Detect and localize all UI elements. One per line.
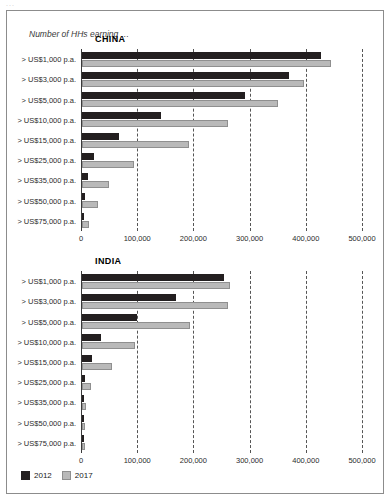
bar-2017 [82, 363, 112, 370]
bar-2012 [82, 213, 84, 220]
category-label: > US$15,000 p.a. [17, 358, 76, 367]
plot-area-india: 0100,000200,000300,000400,000500,000> US… [81, 271, 362, 453]
bar-2017 [82, 161, 134, 168]
legend-swatch-2012 [21, 471, 30, 480]
category-label: > US$3,000 p.a. [22, 297, 76, 306]
legend-item-2017: 2017 [62, 471, 93, 480]
x-tick-label: 400,000 [292, 234, 319, 243]
legend-label-2012: 2012 [34, 471, 52, 480]
x-tick-label: 200,000 [180, 456, 207, 465]
gridline [306, 271, 307, 453]
bar-2012 [82, 294, 176, 301]
bar-2017 [82, 282, 230, 289]
bar-2017 [82, 403, 86, 410]
bar-2012 [82, 72, 289, 79]
bar-2017 [82, 181, 109, 188]
bar-2017 [82, 80, 304, 87]
bar-2012 [82, 334, 101, 341]
category-label: > US$1,000 p.a. [22, 55, 76, 64]
bar-2017 [82, 221, 89, 228]
bar-2012 [82, 153, 94, 160]
category-label: > US$5,000 p.a. [22, 95, 76, 104]
category-label: > US$3,000 p.a. [22, 75, 76, 84]
bar-2012 [82, 314, 137, 321]
bar-2017 [82, 120, 228, 127]
gridline [362, 271, 363, 453]
category-label: > US$15,000 p.a. [17, 136, 76, 145]
x-tick-label: 500,000 [348, 456, 375, 465]
bar-2012 [82, 133, 119, 140]
figure-frame: Number of HHs earning … CHINA 0100,00020… [6, 10, 384, 494]
category-label: > US$75,000 p.a. [17, 216, 76, 225]
category-label: > US$25,000 p.a. [17, 378, 76, 387]
category-label: > US$1,000 p.a. [22, 277, 76, 286]
bar-2012 [82, 173, 88, 180]
bar-2017 [82, 383, 91, 390]
chart-title-china: CHINA [95, 34, 126, 44]
x-tick-label: 400,000 [292, 456, 319, 465]
gridline [362, 49, 363, 231]
category-label: > US$10,000 p.a. [17, 337, 76, 346]
legend-item-2012: 2012 [21, 471, 52, 480]
plot-area-china: 0100,000200,000300,000400,000500,000> US… [81, 49, 362, 231]
bar-2012 [82, 274, 224, 281]
category-label: > US$10,000 p.a. [17, 115, 76, 124]
bar-2017 [82, 342, 135, 349]
bar-2012 [82, 92, 245, 99]
bar-2017 [82, 443, 85, 450]
x-tick-label: 0 [79, 234, 83, 243]
category-label: > US$5,000 p.a. [22, 317, 76, 326]
bar-2012 [82, 193, 85, 200]
x-tick-label: 100,000 [124, 234, 151, 243]
bar-2012 [82, 112, 161, 119]
bar-2012 [82, 375, 85, 382]
gridline [306, 49, 307, 231]
bar-2017 [82, 141, 189, 148]
bar-2017 [82, 423, 85, 430]
x-tick-label: 200,000 [180, 234, 207, 243]
bar-2017 [82, 302, 228, 309]
category-label: > US$25,000 p.a. [17, 156, 76, 165]
legend-swatch-2017 [62, 471, 71, 480]
bar-2017 [82, 100, 278, 107]
category-label: > US$50,000 p.a. [17, 196, 76, 205]
category-label: > US$50,000 p.a. [17, 418, 76, 427]
bar-2017 [82, 322, 190, 329]
bar-2012 [82, 355, 92, 362]
gridline [250, 271, 251, 453]
bar-2017 [82, 201, 98, 208]
bar-2012 [82, 395, 84, 402]
x-tick-label: 0 [79, 456, 83, 465]
x-tick-label: 300,000 [236, 456, 263, 465]
x-tick-label: 300,000 [236, 234, 263, 243]
category-label: > US$75,000 p.a. [17, 438, 76, 447]
x-tick-label: 500,000 [348, 234, 375, 243]
bar-2012 [82, 52, 321, 59]
category-label: > US$35,000 p.a. [17, 398, 76, 407]
legend-label-2017: 2017 [75, 471, 93, 480]
x-tick-label: 100,000 [124, 456, 151, 465]
category-label: > US$35,000 p.a. [17, 176, 76, 185]
bar-2017 [82, 60, 331, 67]
page-crumb: ... [6, 0, 15, 7]
chart-page: ... Number of HHs earning … CHINA 0100,0… [0, 0, 392, 504]
gridline [193, 271, 194, 453]
chart-legend: 2012 2017 [21, 471, 93, 480]
bar-2012 [82, 415, 84, 422]
bar-2012 [82, 435, 84, 442]
chart-title-india: INDIA [95, 256, 122, 266]
